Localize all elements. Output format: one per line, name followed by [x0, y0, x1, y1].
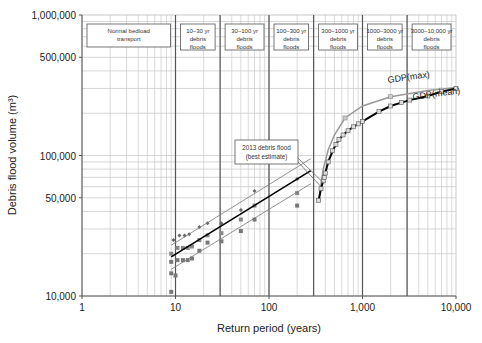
gdp-max-marker: [389, 95, 393, 99]
class-label-text: 300–1000 yr: [321, 28, 354, 34]
class-label-text: floods: [237, 44, 253, 50]
data-point-square: [169, 271, 173, 275]
data-point-square: [239, 229, 243, 233]
gdp-mean-marker: [351, 125, 355, 129]
x-axis-label: Return period (years): [217, 322, 321, 334]
gdp-max-label: GDP(max): [387, 69, 430, 85]
y-tick-label: 100,000: [40, 151, 77, 162]
class-label-text: floods: [283, 44, 299, 50]
class-label-text: Normal bedload: [108, 28, 150, 34]
y-tick-label: 1,000,000: [32, 10, 77, 21]
data-point-square: [169, 290, 173, 294]
gdp-max-marker: [343, 116, 347, 120]
data-point-square: [295, 204, 299, 208]
chart-svg: Normal bedloadtransport10–30 yrdebrisflo…: [0, 0, 482, 343]
gdp-mean-marker: [341, 133, 345, 137]
class-label-box: 300–1000 yrdebrisfloods: [319, 24, 358, 50]
data-point-diamond: [177, 233, 181, 237]
class-label-box: 100–300 yrdebrisfloods: [274, 24, 309, 50]
x-tick-label: 10: [170, 302, 182, 313]
class-label-text: debris: [377, 36, 393, 42]
data-point-square: [175, 258, 179, 262]
annotation-leader-line: [298, 162, 321, 187]
gdp-mean-marker: [356, 122, 360, 126]
class-label-text: debris: [190, 36, 206, 42]
chart-container: Normal bedloadtransport10–30 yrdebrisflo…: [0, 0, 482, 343]
class-label-text: debris: [423, 36, 439, 42]
series-gdp-mean-: [317, 86, 458, 202]
x-tick-label: 1,000: [350, 302, 375, 313]
data-point-square: [169, 260, 173, 264]
annotation-text: 2013 debris flood: [242, 144, 291, 151]
gdp-mean-marker: [337, 137, 341, 141]
gdp-mean-marker: [317, 198, 321, 202]
data-point-square: [219, 231, 223, 235]
data-point-square: [219, 239, 223, 243]
gdp-mean-marker: [322, 175, 326, 179]
class-label-box: Normal bedloadtransport: [87, 24, 171, 47]
y-axis-label: Debris flood volume (m³): [6, 95, 18, 215]
gdp-mean-marker: [323, 171, 327, 175]
gdp-mean-marker: [377, 110, 381, 114]
gdp-mean-marker: [334, 142, 338, 146]
gdp-mean-marker: [361, 119, 365, 123]
gdp-mean-marker: [346, 129, 350, 133]
class-label-text: debris: [236, 36, 252, 42]
class-label-text: 3000–10,000 yr: [411, 28, 453, 34]
data-series: GDP(max)GDP(mean): [169, 69, 461, 294]
y-tick-label: 50,000: [45, 193, 76, 204]
class-label-text: 30–100 yr: [231, 28, 258, 34]
x-tick-label: 10,000: [441, 302, 472, 313]
x-tick-label: 1: [79, 302, 85, 313]
data-point-square: [206, 241, 210, 245]
class-label-box: 1000–3000 yrdebrisfloods: [366, 24, 403, 50]
x-tick-label: 100: [261, 302, 278, 313]
class-label-text: floods: [377, 44, 393, 50]
y-tick-label: 500,000: [40, 52, 77, 63]
gdp-mean-marker: [319, 187, 323, 191]
class-label-text: debris: [330, 36, 346, 42]
class-label-box: 30–100 yrdebrisfloods: [225, 24, 264, 50]
gdp-mean-marker: [408, 98, 412, 102]
gdp-mean-marker: [331, 149, 335, 153]
data-point-square: [174, 273, 178, 277]
gdp-mean-marker: [389, 104, 393, 108]
gdp-mean-label: GDP(mean): [412, 85, 461, 102]
class-label-box: 10–30 yrdebrisfloods: [181, 24, 216, 50]
data-point-square: [175, 246, 179, 250]
data-point-square: [239, 218, 243, 222]
class-label-text: floods: [424, 44, 440, 50]
class-label-text: floods: [190, 44, 206, 50]
data-point-diamond: [171, 238, 175, 242]
class-label-text: 1000–3000 yr: [366, 28, 403, 34]
gdp-mean-marker: [399, 101, 403, 105]
class-label-text: 10–30 yr: [186, 28, 209, 34]
class-label-box: 3000–10,000 yrdebrisfloods: [411, 24, 453, 50]
class-label-text: debris: [283, 36, 299, 42]
annotation-text: (best estimate): [246, 153, 288, 161]
y-tick-label: 10,000: [45, 291, 76, 302]
class-label-text: 100–300 yr: [276, 28, 306, 34]
class-label-text: transport: [117, 36, 141, 42]
class-label-text: floods: [330, 44, 346, 50]
gdp-mean-marker: [326, 160, 330, 164]
